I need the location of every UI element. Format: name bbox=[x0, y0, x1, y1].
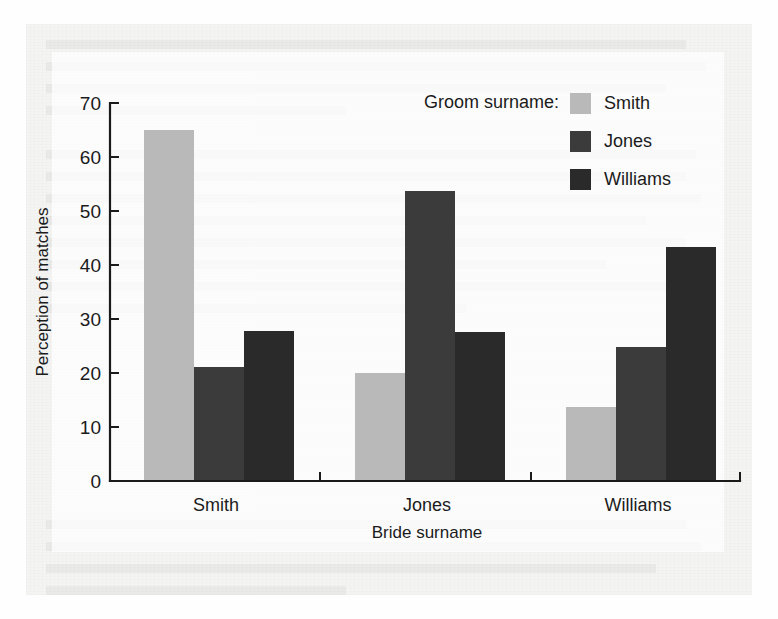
bars-group-jones bbox=[355, 191, 505, 482]
bar-smith-jones bbox=[194, 367, 244, 481]
legend-swatch-williams bbox=[570, 169, 591, 190]
bars-group-smith bbox=[144, 130, 294, 481]
legend-label-smith: Smith bbox=[604, 93, 650, 113]
y-axis-title: Perception of matches bbox=[33, 207, 52, 376]
bar-williams-jones bbox=[616, 347, 666, 482]
bar-jones-jones bbox=[405, 191, 455, 482]
y-tick-label-10: 10 bbox=[80, 417, 101, 438]
y-axis-ticks bbox=[110, 103, 119, 481]
bar-smith-williams bbox=[244, 331, 294, 481]
legend-swatch-smith bbox=[570, 93, 591, 114]
bar-williams-williams bbox=[666, 247, 716, 481]
x-axis-category-labels: Smith Jones Williams bbox=[193, 495, 672, 515]
y-tick-label-60: 60 bbox=[80, 147, 101, 168]
y-axis-tick-labels: 70 60 50 40 30 20 10 0 bbox=[80, 93, 101, 492]
bar-williams-smith bbox=[566, 407, 616, 482]
legend-item-williams[interactable]: Williams bbox=[570, 169, 671, 190]
legend-item-smith[interactable]: Smith bbox=[570, 93, 650, 114]
y-tick-label-40: 40 bbox=[80, 255, 101, 276]
y-tick-label-0: 0 bbox=[90, 471, 101, 492]
legend-title: Groom surname: bbox=[424, 92, 559, 112]
y-tick-label-30: 30 bbox=[80, 309, 101, 330]
bar-chart: 70 60 50 40 30 20 10 0 bbox=[0, 0, 778, 619]
y-tick-label-70: 70 bbox=[80, 93, 101, 114]
y-tick-label-20: 20 bbox=[80, 363, 101, 384]
legend-label-jones: Jones bbox=[604, 131, 652, 151]
bar-smith-smith bbox=[144, 130, 194, 481]
x-category-label-smith: Smith bbox=[193, 495, 239, 515]
x-axis-title: Bride surname bbox=[372, 523, 483, 542]
legend-label-williams: Williams bbox=[604, 169, 671, 189]
x-category-label-williams: Williams bbox=[605, 495, 672, 515]
x-category-label-jones: Jones bbox=[403, 495, 451, 515]
legend-item-jones[interactable]: Jones bbox=[570, 131, 652, 152]
y-tick-label-50: 50 bbox=[80, 201, 101, 222]
bar-jones-williams bbox=[455, 332, 505, 481]
bar-jones-smith bbox=[355, 373, 405, 481]
y-axis: 70 60 50 40 30 20 10 0 bbox=[80, 93, 119, 492]
legend: Groom surname: Smith Jones Williams bbox=[424, 92, 671, 190]
scanned-page: 70 60 50 40 30 20 10 0 bbox=[0, 0, 778, 619]
bars-group-williams bbox=[566, 247, 716, 481]
legend-swatch-jones bbox=[570, 131, 591, 152]
